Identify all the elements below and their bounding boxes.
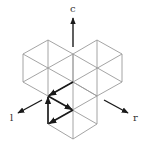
bold-arrow-2 (48, 96, 72, 110)
l-label: l (10, 112, 13, 123)
r-axis-arrow (104, 100, 128, 113)
bold-arrow-3 (49, 110, 73, 124)
left-hexagon (23, 40, 73, 96)
c-label: c (70, 3, 76, 14)
lattice-diagram: c l r (0, 0, 147, 148)
l-axis-arrow (18, 100, 42, 113)
r-label: r (133, 112, 138, 123)
right-hexagon (73, 40, 122, 96)
bold-path (48, 82, 73, 124)
bold-arrow-1 (49, 82, 73, 96)
